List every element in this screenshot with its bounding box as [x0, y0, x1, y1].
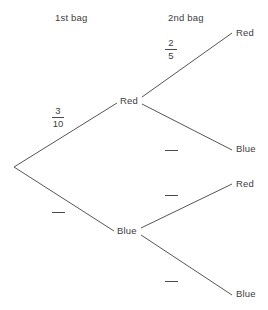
branch-label-stage2-blue-red: [165, 195, 178, 196]
fraction-bar: [52, 212, 65, 213]
fraction-bar: [165, 195, 178, 196]
tree-diagram-lines: [0, 0, 268, 310]
edge-root-to-red: [14, 103, 117, 167]
branch-label-stage2-red-blue: [165, 150, 178, 151]
fraction-denominator: 10: [52, 119, 64, 129]
fraction-bar: [165, 281, 178, 282]
branch-label-stage1-blue: [52, 212, 65, 213]
node-stage1-red: Red: [120, 95, 138, 106]
node-stage2-red-then-red: Red: [236, 27, 254, 38]
branch-label-stage2-red-red: 2 5: [165, 38, 177, 61]
column-header-second-bag: 2nd bag: [168, 12, 204, 23]
fraction-bar: [165, 150, 178, 151]
edge-blue-to-red: [141, 184, 232, 228]
node-stage2-red-then-blue: Blue: [236, 143, 256, 154]
node-stage1-blue: Blue: [117, 225, 137, 236]
fraction-denominator: 5: [165, 51, 177, 61]
fraction-numerator: 2: [165, 38, 177, 48]
edge-red-to-blue: [142, 104, 232, 150]
edge-root-to-blue: [14, 167, 114, 231]
node-stage2-blue-then-red: Red: [236, 178, 254, 189]
edge-blue-to-blue: [141, 235, 232, 295]
column-header-first-bag: 1st bag: [55, 12, 88, 23]
branch-label-stage2-blue-blue: [165, 281, 178, 282]
node-stage2-blue-then-blue: Blue: [236, 288, 256, 299]
edge-red-to-red: [142, 33, 232, 97]
branch-label-stage1-red: 3 10: [52, 106, 64, 129]
fraction-numerator: 3: [52, 106, 64, 116]
